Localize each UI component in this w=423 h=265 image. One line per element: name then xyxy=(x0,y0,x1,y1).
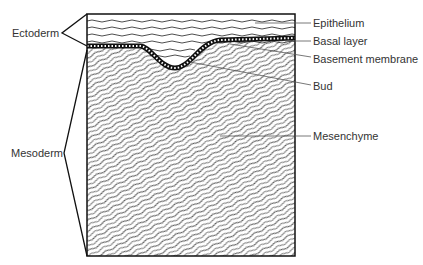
ectoderm-label: Ectoderm xyxy=(12,27,59,39)
mesoderm-bracket xyxy=(64,50,87,256)
mesenchyme-label: Mesenchyme xyxy=(313,130,378,142)
mesoderm-label: Mesoderm xyxy=(11,147,63,159)
basal-layer-label: Basal layer xyxy=(313,35,367,47)
mesenchyme-region xyxy=(87,38,295,256)
epithelium-label: Epithelium xyxy=(313,17,364,29)
basement-membrane-label: Basement membrane xyxy=(313,53,418,65)
ectoderm-bracket xyxy=(62,14,87,46)
bud-label: Bud xyxy=(313,80,333,92)
